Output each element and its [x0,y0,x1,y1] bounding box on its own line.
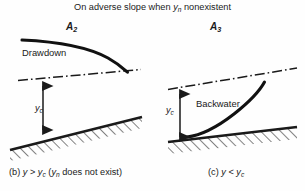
panel-c-group [168,68,297,154]
panel-b-group [10,40,142,161]
critical-depth-line-left [18,70,141,81]
diagram-vector-layer [0,0,305,191]
backwater-water-surface [187,82,265,137]
flow-profile-figure: On adverse slope when yn nonexistent A2 … [0,0,305,191]
drawdown-water-surface [22,40,128,72]
critical-depth-line-right [168,68,297,90]
channel-bed-fill-left [10,117,142,161]
channel-bed-line-left [10,117,142,150]
